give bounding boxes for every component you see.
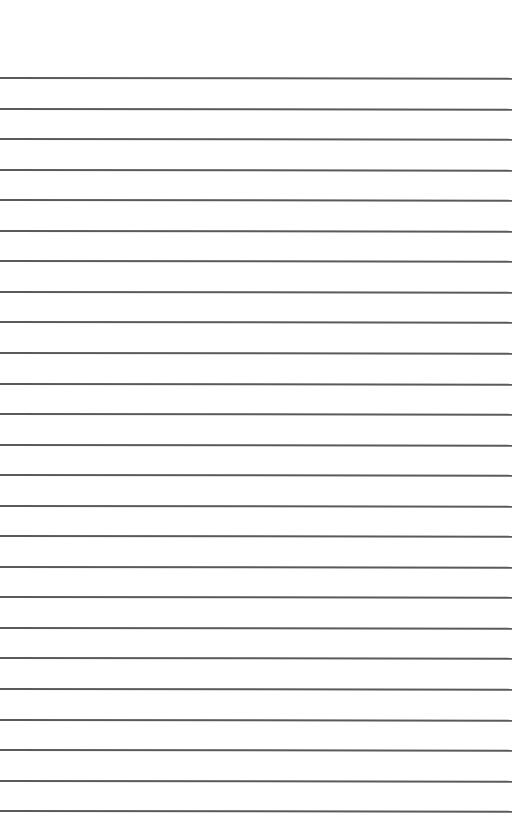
ruled-line bbox=[0, 627, 512, 629]
ruled-line bbox=[0, 383, 512, 385]
ruled-line bbox=[0, 413, 512, 415]
ruled-line bbox=[0, 169, 512, 171]
ruled-line bbox=[0, 566, 512, 568]
ruled-line bbox=[0, 108, 512, 110]
ruled-line bbox=[0, 474, 512, 476]
ruled-line bbox=[0, 77, 512, 79]
ruled-line bbox=[0, 719, 512, 721]
ruled-line bbox=[0, 291, 512, 293]
ruled-line bbox=[0, 749, 512, 751]
ruled-line bbox=[0, 260, 512, 262]
ruled-line bbox=[0, 780, 512, 782]
ruled-line bbox=[0, 352, 512, 354]
ruled-line bbox=[0, 199, 512, 201]
ruled-line bbox=[0, 688, 512, 690]
lined-paper-sheet bbox=[0, 0, 514, 832]
ruled-line bbox=[0, 138, 512, 140]
ruled-line bbox=[0, 444, 512, 446]
ruled-line bbox=[0, 230, 512, 232]
ruled-line bbox=[0, 657, 512, 659]
ruled-line bbox=[0, 321, 512, 323]
ruled-line bbox=[0, 505, 512, 507]
ruled-line bbox=[0, 810, 512, 812]
ruled-line bbox=[0, 535, 512, 537]
ruled-line bbox=[0, 596, 512, 598]
